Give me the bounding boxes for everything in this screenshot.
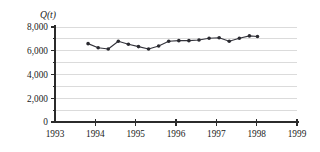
data-point bbox=[248, 34, 252, 38]
data-point bbox=[187, 39, 191, 43]
y-axis bbox=[51, 25, 55, 122]
y-tick-label-8000: 8,000 bbox=[27, 22, 48, 32]
x-tick-label-1994: 1994 bbox=[86, 129, 105, 139]
data-point bbox=[157, 44, 161, 48]
series-markers-q bbox=[86, 34, 259, 51]
chart-figure: 8,000 6,000 4,000 2,000 0 Q(t) 1993 1994… bbox=[0, 0, 320, 152]
data-point bbox=[137, 45, 141, 49]
data-point bbox=[256, 35, 260, 39]
x-tick-label-1999: 1999 bbox=[288, 129, 307, 139]
data-point bbox=[177, 39, 181, 43]
line-chart: 8,000 6,000 4,000 2,000 0 Q(t) 1993 1994… bbox=[0, 0, 320, 152]
data-point bbox=[106, 47, 110, 51]
y-tick-labels: 8,000 6,000 4,000 2,000 0 bbox=[27, 22, 48, 127]
data-point bbox=[227, 39, 231, 43]
data-point bbox=[217, 36, 221, 40]
data-point bbox=[96, 46, 100, 50]
data-point bbox=[197, 38, 201, 42]
y-tick-label-6000: 6,000 bbox=[27, 46, 48, 56]
x-tick-label-1996: 1996 bbox=[167, 129, 186, 139]
y-tick-label-4000: 4,000 bbox=[27, 70, 48, 80]
data-point bbox=[238, 36, 242, 40]
y-tick-label-0: 0 bbox=[43, 117, 48, 127]
y-tick-label-2000: 2,000 bbox=[27, 94, 48, 104]
data-point bbox=[147, 47, 151, 51]
x-tick-label-1995: 1995 bbox=[126, 129, 145, 139]
gridlines bbox=[55, 27, 297, 110]
data-point bbox=[167, 39, 171, 43]
data-point bbox=[117, 39, 121, 43]
y-axis-title: Q(t) bbox=[40, 9, 56, 21]
x-tick-label-1998: 1998 bbox=[247, 129, 266, 139]
data-point bbox=[127, 42, 131, 46]
data-point bbox=[207, 36, 211, 40]
data-point bbox=[86, 42, 90, 46]
x-tick-label-1997: 1997 bbox=[207, 129, 226, 139]
data-series-q bbox=[86, 34, 259, 51]
x-tick-label-1993: 1993 bbox=[46, 129, 65, 139]
x-tick-labels: 1993 1994 1995 1996 1997 1998 1999 bbox=[46, 129, 307, 139]
series-line-q bbox=[88, 36, 257, 49]
x-axis bbox=[55, 119, 299, 126]
